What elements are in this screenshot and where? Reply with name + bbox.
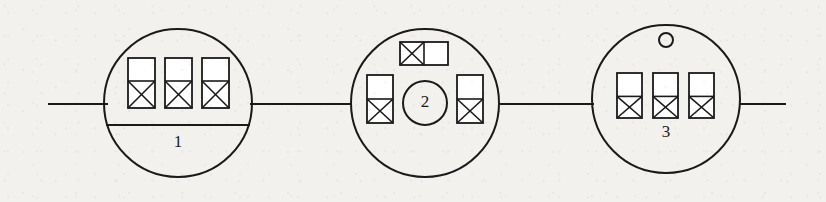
box-2-top	[400, 42, 448, 65]
box-3-b-outline	[653, 73, 678, 118]
box-1-a	[128, 58, 155, 108]
box-3-b	[653, 73, 678, 118]
schematic-diagram-canvas: 123	[0, 0, 826, 202]
box-3-c-outline	[689, 73, 714, 118]
node-1-label: 1	[174, 132, 183, 151]
node-3: 3	[592, 25, 740, 173]
small-circle-node3	[659, 33, 673, 47]
box-2-left	[367, 75, 393, 123]
diagram-svg: 123	[0, 0, 826, 202]
node-2-label: 2	[421, 92, 430, 111]
box-3-a-outline	[617, 73, 642, 118]
nodes-layer: 123	[104, 25, 740, 177]
box-1-c-outline	[202, 58, 229, 108]
box-1-b-outline	[165, 58, 192, 108]
box-1-a-outline	[128, 58, 155, 108]
box-3-c	[689, 73, 714, 118]
box-2-right	[457, 75, 483, 123]
box-1-c	[202, 58, 229, 108]
node-1: 1	[104, 29, 252, 177]
box-3-a	[617, 73, 642, 118]
node-3-label: 3	[662, 122, 671, 141]
box-1-b	[165, 58, 192, 108]
node-2: 2	[351, 29, 499, 177]
